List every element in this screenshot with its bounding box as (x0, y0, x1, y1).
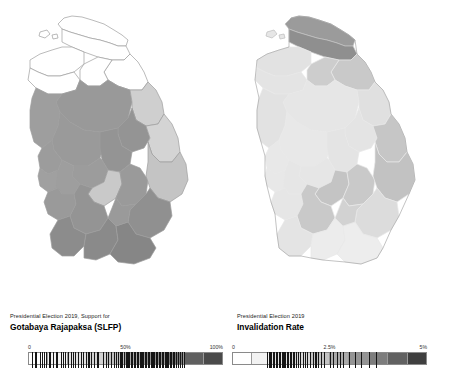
rug-tick (369, 352, 370, 368)
sri-lanka-map-svg-support (0, 2, 227, 302)
rug-tick (49, 352, 50, 368)
rug-tick (108, 352, 109, 368)
legend-min-label: 0 (28, 343, 31, 352)
rug-tick (180, 352, 181, 368)
district-mannar (257, 47, 311, 76)
rug-tick (88, 352, 89, 368)
rug-tick (111, 352, 112, 368)
map-panel-support: Presidential Election 2019, Support for … (0, 0, 227, 392)
rug-tick (324, 352, 325, 368)
legend-labels-support: 0 50% 100% (28, 343, 223, 352)
rug-tick (315, 352, 316, 368)
legend-rug-support (28, 352, 223, 368)
rug-tick (61, 352, 62, 368)
map-panel-invalidation: Presidential Election 2019 Invalidation … (227, 0, 454, 392)
rug-tick (330, 352, 331, 368)
legend-support: 0 50% 100% (28, 343, 223, 368)
rug-tick (349, 352, 350, 368)
legend-max-label: 100% (210, 343, 223, 352)
island-small-a (279, 34, 285, 39)
rug-tick (305, 352, 306, 368)
rug-tick (340, 352, 341, 368)
rug-tick (361, 352, 362, 368)
legend-rug-invalidation (232, 352, 427, 368)
rug-tick (307, 352, 308, 368)
legend-invalidation: 0 2.5% 5% (232, 343, 427, 368)
rug-tick (296, 352, 297, 368)
legend-mid-label: 2.5% (324, 343, 336, 352)
island-delft (266, 30, 277, 38)
rug-tick (86, 352, 87, 368)
caption-title: Invalidation Rate (237, 321, 449, 333)
rug-tick (114, 352, 115, 368)
district-mannar (30, 47, 84, 76)
rug-tick (355, 352, 356, 368)
rug-tick (182, 352, 183, 368)
choropleth-map-invalidation (227, 2, 454, 302)
legend-labels-invalidation: 0 2.5% 5% (232, 343, 427, 352)
legend-max-label: 5% (420, 343, 428, 352)
legend-mid-label: 50% (120, 343, 130, 352)
rug-tick (68, 352, 69, 368)
island-small-a (52, 34, 58, 39)
rug-tick (313, 352, 314, 368)
rug-tick (53, 352, 54, 368)
rug-tick (300, 352, 301, 368)
rug-tick (91, 352, 92, 368)
rug-tick (176, 352, 177, 368)
legend-min-label: 0 (232, 343, 235, 352)
rug-tick (94, 352, 95, 368)
rug-tick (174, 352, 175, 368)
rug-tick (75, 352, 76, 368)
rug-tick (184, 352, 185, 368)
rug-tick (294, 352, 295, 368)
rug-tick (303, 352, 304, 368)
rug-tick (267, 352, 268, 368)
rug-tick (343, 352, 344, 368)
rug-tick (46, 352, 47, 368)
rug-tick (65, 352, 66, 368)
rug-tick (178, 352, 179, 368)
caption-title: Gotabaya Rajapaksa (SLFP) (10, 321, 222, 333)
caption-invalidation: Presidential Election 2019 Invalidation … (237, 312, 449, 333)
rug-tick (310, 352, 311, 368)
rug-tick (337, 352, 338, 368)
rug-tick (78, 352, 79, 368)
caption-subtitle: Presidential Election 2019 (237, 312, 449, 320)
rug-tick (124, 352, 125, 368)
rug-tick (103, 352, 104, 368)
rug-tick (98, 352, 99, 368)
rug-tick (36, 352, 37, 368)
rug-tick (71, 352, 72, 368)
rug-tick (32, 352, 33, 368)
island-delft (39, 30, 50, 38)
rug-tick (118, 352, 119, 368)
caption-support: Presidential Election 2019, Support for … (10, 312, 222, 333)
rug-tick (298, 352, 299, 368)
rug-tick (57, 352, 58, 368)
rug-tick (333, 352, 334, 368)
rug-tick (321, 352, 322, 368)
rug-tick (83, 352, 84, 368)
rug-tick (376, 352, 377, 368)
choropleth-map-support (0, 2, 227, 302)
rug-tick (40, 352, 41, 368)
caption-subtitle: Presidential Election 2019, Support for (10, 312, 222, 320)
rug-tick (318, 352, 319, 368)
rug-tick (44, 352, 45, 368)
sri-lanka-map-svg-invalidation (227, 2, 454, 302)
